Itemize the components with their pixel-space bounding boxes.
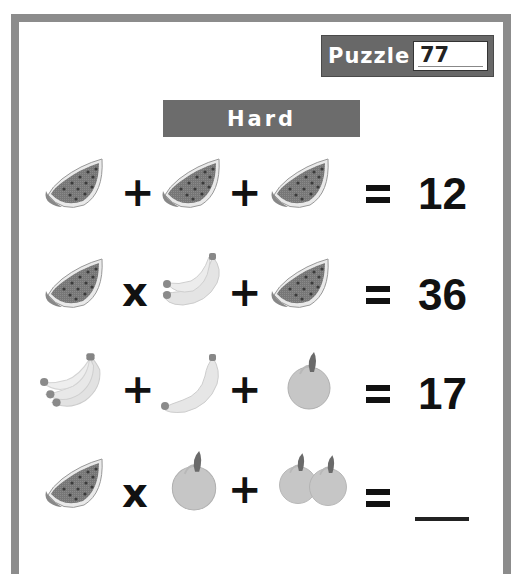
watermelon-icon [266,155,336,215]
plus-operator: + [121,369,155,409]
watermelon-icon [266,255,336,315]
pear-icon [306,451,350,509]
difficulty-banner: Hard [163,100,360,137]
banana-icon [157,351,227,417]
puzzle-number-value: 77 [420,43,449,67]
watermelon-icon [157,155,227,215]
puzzle-label: Puzzle [328,44,410,68]
equals-sign [366,286,390,304]
equation-row-3: + + 17 [0,345,515,435]
plus-operator: + [228,172,262,212]
banana-icon [157,252,227,314]
multiply-operator: x [122,473,148,513]
plus-operator: + [228,469,262,509]
equation-result: 36 [418,273,467,317]
watermelon-icon [40,455,110,515]
puzzle-number-badge: Puzzle 77 [321,35,494,77]
watermelon-icon [40,155,110,215]
equation-row-1: + + 12 [0,150,515,240]
equation-result: 17 [418,372,467,416]
watermelon-icon [40,255,110,315]
plus-operator: + [228,272,262,312]
equals-sign [366,385,390,403]
plus-operator: + [121,172,155,212]
puzzle-number-field[interactable]: 77 [413,41,488,71]
pear-icon [168,449,220,511]
equation-row-4: x + [0,445,515,535]
equals-sign [366,489,390,507]
answer-blank[interactable] [415,517,469,521]
pear-icon [284,350,334,410]
multiply-operator: x [122,272,148,312]
plus-operator: + [228,369,262,409]
bananas-bunch-icon [38,351,110,413]
equation-result: 12 [418,172,467,216]
equation-row-2: x + 36 [0,250,515,340]
puzzle-number-underline [418,66,483,67]
equals-sign [366,185,390,203]
